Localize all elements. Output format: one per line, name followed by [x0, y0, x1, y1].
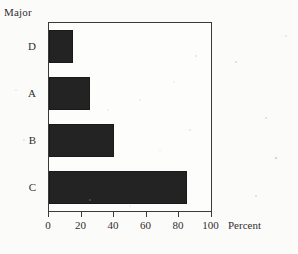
x-axis-ticks: 020406080100: [48, 212, 212, 242]
x-tick-label-80: 80: [173, 219, 184, 231]
category-label-c: C: [29, 181, 36, 193]
category-label-b: B: [29, 134, 36, 146]
x-tick-label-40: 40: [108, 219, 119, 231]
x-tick-20: [81, 212, 82, 217]
x-tick-100: [211, 212, 212, 217]
category-label-a: A: [28, 87, 36, 99]
x-tick-0: [48, 212, 49, 217]
x-tick-40: [113, 212, 114, 217]
x-tick-label-60: 60: [140, 219, 151, 231]
x-tick-label-0: 0: [45, 219, 51, 231]
category-label-d: D: [28, 40, 36, 52]
x-tick-label-100: 100: [202, 219, 219, 231]
bar-a: A: [49, 77, 90, 110]
bar-c: C: [49, 171, 187, 204]
y-axis-title: Major: [4, 6, 32, 18]
x-tick-60: [146, 212, 147, 217]
bar-chart: Major DABC 020406080100 Percent: [0, 0, 298, 254]
x-axis-title: Percent: [228, 219, 261, 231]
bar-d: D: [49, 30, 73, 63]
bar-b: B: [49, 124, 114, 157]
bars-layer: DABC: [49, 23, 211, 211]
x-tick-label-20: 20: [75, 219, 86, 231]
x-tick-80: [178, 212, 179, 217]
